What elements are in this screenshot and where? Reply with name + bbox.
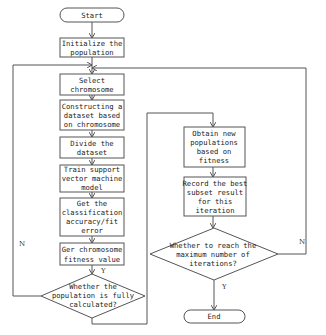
classify-line: accuracy/fit [66,217,118,226]
decision2-line: maximum number of [176,250,250,259]
flowchart: Start Initialize the population Select c… [0,0,326,335]
init-box: Initialize the population [60,38,124,57]
train-box: Train support vector machine model [60,165,124,192]
decision1-line: Whether the [69,282,117,291]
end-label: End [208,312,221,321]
record-line: for this [198,197,233,206]
divide-line: dataset [77,148,107,157]
train-line: vector machine [62,174,123,183]
record-box: Record the best subset result for this i… [183,177,248,216]
init-line: Initialize the [62,39,123,48]
decision1-line: calculated? [69,300,117,309]
obtain-line: based on [197,147,232,156]
fitness-line: fitness value [64,255,120,264]
record-line: iteration [196,206,235,215]
train-line: Train support [64,165,120,174]
construct-line: on chromosome [64,120,120,129]
record-line: subset result [187,188,243,197]
select-line: Select [79,76,105,85]
obtain-line: fitness [199,156,229,165]
label-yes2: Y [221,283,227,291]
obtain-line: Obtain new [192,129,236,138]
divide-line: Divide the [70,139,113,148]
label-no1: N [19,240,25,248]
fitness-box: Ger chromosome fitness value [60,243,124,265]
select-box: Select chromosome [60,74,124,95]
obtain-box: Obtain new populations based on fitness [184,127,245,167]
label-no2: N [299,238,305,246]
decision1-diamond: Whether the population is fully calculat… [41,274,145,318]
end-terminal: End [184,310,245,323]
record-line: Record the best [183,179,248,188]
fitness-line: Ger chromosome [62,245,123,254]
init-line: population [70,48,113,57]
train-line: model [81,183,103,192]
construct-line: dataset based [64,111,120,120]
start-label: Start [81,11,103,20]
connectors [13,22,306,324]
decision1-line: population is fully [52,291,135,300]
decision2-diamond: Whether to reach the maximum number of i… [150,228,278,280]
decision2-line: Whether to reach the [170,241,257,250]
select-line: chromosome [70,85,113,94]
classify-line: classification [62,208,123,217]
obtain-line: populations [190,138,238,147]
classify-box: Get the classification accuracy/fit erro… [60,198,124,236]
classify-line: Get the [77,199,107,208]
classify-line: error [81,226,103,235]
label-yes1: Y [100,267,106,275]
construct-box: Constructing a dataset based on chromoso… [60,100,124,130]
start-terminal: Start [60,8,124,22]
construct-line: Constructing a [62,102,123,111]
decision2-line: iterations? [189,259,237,268]
divide-box: Divide the dataset [60,137,124,158]
